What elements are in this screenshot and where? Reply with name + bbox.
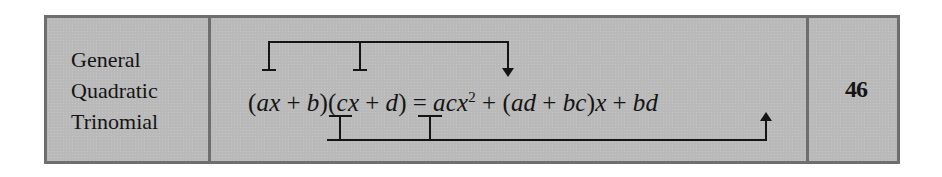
column-divider [208,18,211,161]
term-cx: cx [337,89,360,116]
equals-sign: = [407,89,433,116]
formula-name-cell: General Quadratic Trinomial [71,44,158,137]
term-d: d [386,89,399,116]
plus-sign: + [359,89,385,116]
plus-sign: + [606,89,632,116]
paren-open: ( [248,89,257,116]
top-bracket [262,42,508,72]
term-acx: acx [433,89,468,116]
foil-equation: (ax+b)(cx+d)=acx2+(ad+bc)x+bd [248,89,658,117]
plus-sign: + [536,89,562,116]
paren-open: ( [502,89,511,116]
formula-cell: (ax+b)(cx+d)=acx2+(ad+bc)x+bd [214,18,809,161]
term-x: x [595,89,606,116]
formula-table-row: General Quadratic Trinomial [44,15,900,164]
down-arrow-icon [502,68,514,77]
plus-sign: + [476,89,502,116]
reference-number-cell: 46 [812,18,900,161]
paren-open: ( [328,89,337,116]
term-ad: ad [511,89,536,116]
up-arrow-icon [760,112,772,121]
bottom-bracket [327,116,766,140]
label-line: General [71,44,158,75]
paren-close: ) [587,89,596,116]
paren-close: ) [320,89,329,116]
label-line: Quadratic [71,75,158,106]
label-line: Trinomial [71,106,158,137]
reference-number: 46 [845,76,867,103]
plus-sign: + [281,89,307,116]
term-bd: bd [633,89,658,116]
exponent: 2 [468,89,476,105]
term-bc: bc [563,89,587,116]
term-ax: ax [257,89,281,116]
paren-close: ) [398,89,407,116]
term-b: b [307,89,320,116]
